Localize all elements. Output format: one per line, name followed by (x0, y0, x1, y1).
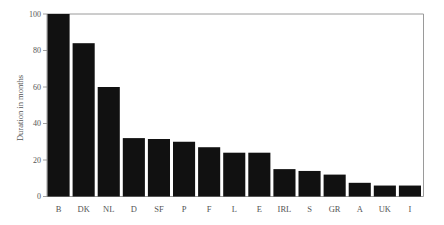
bar-e (248, 153, 270, 197)
x-tick-label: D (131, 204, 137, 214)
x-tick-label: DK (78, 204, 91, 214)
y-axis-label: Duration in months (15, 75, 25, 141)
x-tick-label: P (182, 204, 187, 214)
bar-s (299, 171, 321, 197)
y-axis: 020406080100 (29, 10, 47, 202)
x-tick-label: E (257, 204, 262, 214)
bar-uk (374, 186, 396, 197)
bar-l (223, 153, 245, 197)
bar-i (399, 186, 421, 197)
y-tick-label: 80 (33, 46, 41, 55)
x-tick-label: L (232, 204, 237, 214)
x-tick-label: UK (379, 204, 392, 214)
bar-chart: 020406080100 BDKNLDSFPFLEIRLSGRAUKI Dura… (0, 0, 444, 225)
y-tick-label: 40 (33, 119, 41, 128)
bar-a (349, 183, 371, 197)
bar-b (48, 14, 70, 197)
x-tick-label: B (56, 204, 62, 214)
bar-nl (98, 87, 120, 197)
bar-irl (273, 169, 295, 196)
bar-gr (324, 175, 346, 197)
x-tick-label: A (357, 204, 364, 214)
x-tick-label: S (307, 204, 312, 214)
x-tick-label: SF (154, 204, 164, 214)
bar-sf (148, 139, 170, 196)
x-tick-label: I (409, 204, 412, 214)
bar-d (123, 138, 145, 196)
bar-f (198, 147, 220, 196)
y-tick-label: 60 (33, 83, 41, 92)
y-tick-label: 0 (37, 192, 41, 201)
y-tick-label: 20 (33, 156, 41, 165)
x-tick-label: IRL (278, 204, 292, 214)
x-tick-label: F (207, 204, 212, 214)
bar-dk (73, 43, 95, 196)
y-tick-label: 100 (29, 10, 41, 19)
x-tick-label: GR (329, 204, 341, 214)
x-axis: BDKNLDSFPFLEIRLSGRAUKI (56, 204, 412, 214)
bar-p (173, 142, 195, 197)
bars (48, 14, 422, 197)
x-tick-label: NL (103, 204, 114, 214)
